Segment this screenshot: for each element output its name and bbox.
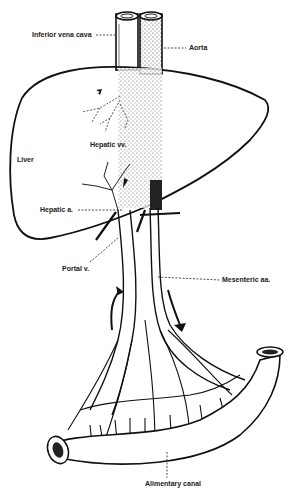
label-hepatic-veins: Hepatic vv.	[90, 141, 126, 148]
label-hepatic-artery: Hepatic a.	[40, 206, 73, 213]
branch-vessels-upper	[96, 210, 180, 240]
label-alimentary-canal: Alimentary canal	[145, 480, 201, 487]
aorta-vessel	[140, 12, 162, 74]
alimentary-canal	[50, 355, 280, 464]
flow-arrow-up	[111, 290, 120, 330]
label-inferior-vena-cava: Inferior vena cava	[32, 31, 92, 38]
label-portal-vein: Portal v.	[62, 265, 89, 272]
flow-arrow-down	[168, 290, 180, 325]
flow-arrow-hepatic	[88, 89, 102, 98]
portal-circulation-diagram	[0, 0, 289, 493]
inferior-vena-cava-vessel	[116, 12, 138, 70]
label-liver: Liver	[17, 156, 34, 163]
label-aorta: Aorta	[189, 44, 207, 51]
mesenteric-artery-trunk	[150, 208, 245, 390]
portal-vein-trunk	[90, 210, 136, 415]
label-mesenteric-arteries: Mesenteric aa.	[222, 276, 270, 283]
